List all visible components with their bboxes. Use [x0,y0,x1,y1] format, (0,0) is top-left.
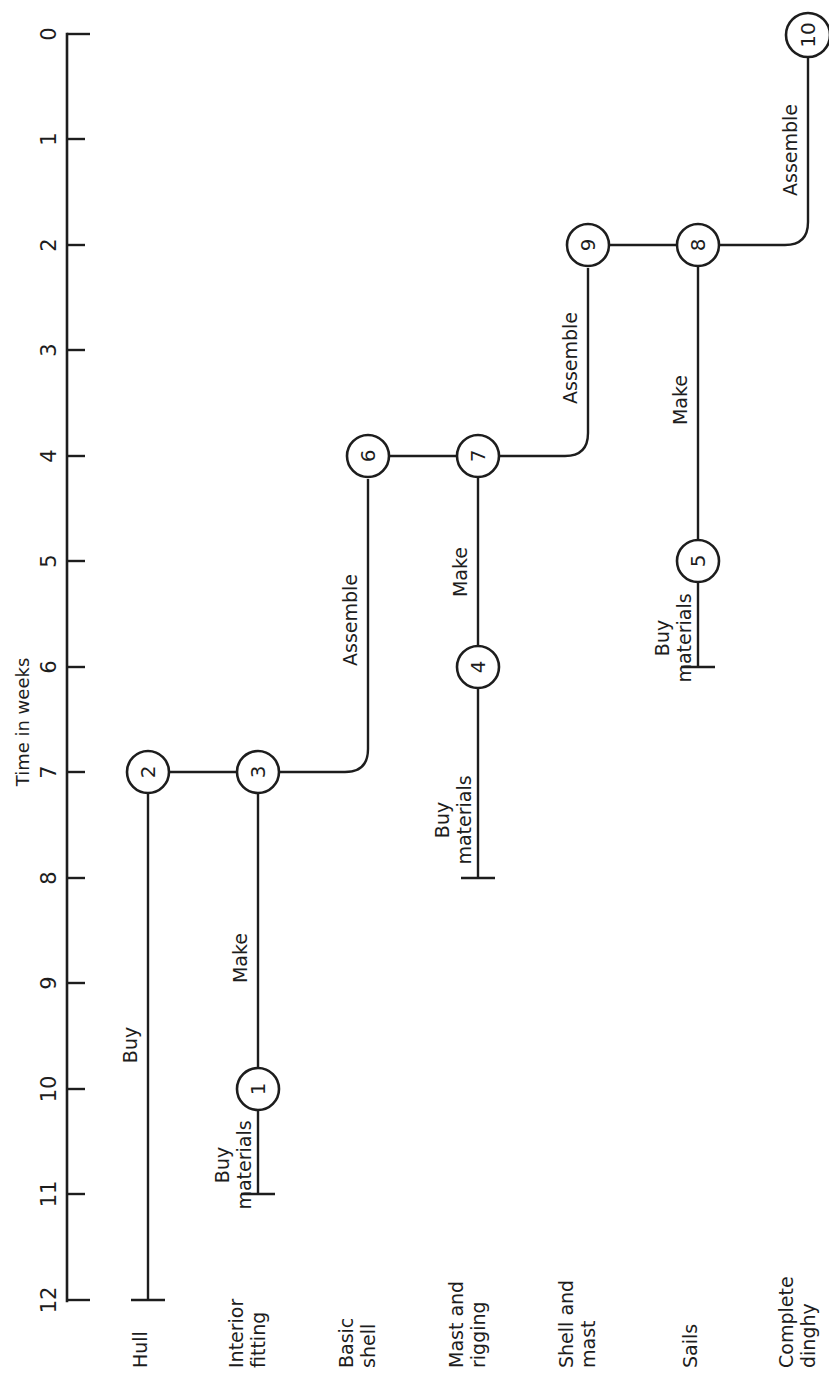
row-label-shell-and-mast-line2: mast [577,1321,599,1369]
node-3-label: 3 [246,766,270,779]
row-label-mast-and-rigging-line2: rigging [467,1301,489,1368]
activity-label-interior-buy-materials-line1: Buy [211,1147,233,1183]
tick-label-0: 0 [37,27,61,40]
axis-ticks [67,34,90,1300]
tick-label-7: 7 [37,765,61,778]
node-3[interactable]: 3 [237,751,279,793]
tick-label-5: 5 [37,554,61,567]
row-label-basic-shell: Basic shell [335,1318,379,1368]
row-label-complete-dinghy-line2: dinghy [797,1303,819,1368]
row-label-interior-fitting-line2: fitting [247,1312,269,1368]
activity-label-mast-make: Make [449,547,471,597]
node-8-label: 8 [686,239,710,252]
activity-label-mast-buy-materials: Buy materials [431,775,475,864]
activity-network-diagram: 0 1 2 3 4 5 6 7 8 9 10 11 12 Time in wee… [0,0,829,1376]
row-label-interior-fitting-line1: Interior [225,1299,247,1368]
node-6[interactable]: 6 [347,435,389,477]
node-2-label: 2 [136,766,160,779]
tick-label-10: 10 [37,1076,61,1103]
tick-label-8: 8 [37,871,61,884]
node-1[interactable]: 1 [237,1068,279,1110]
node-10[interactable]: 10 [786,13,829,57]
axis-title: Time in weeks [12,658,33,788]
axis-tick-labels: 0 1 2 3 4 5 6 7 8 9 10 11 12 [37,27,61,1313]
activity-label-sails-buy-materials: Buy materials [651,593,695,682]
activity-label-mast-buy-materials-line2: materials [453,775,475,864]
node-1-label: 1 [246,1083,270,1096]
tick-label-6: 6 [37,660,61,673]
tick-label-12: 12 [37,1287,61,1314]
node-10-label: 10 [796,22,820,47]
row-label-basic-shell-line2: shell [357,1324,379,1368]
tick-label-1: 1 [37,132,61,145]
row-label-hull: Hull [129,1331,151,1368]
row-label-mast-and-rigging: Mast and rigging [445,1281,489,1368]
tick-label-11: 11 [37,1181,61,1208]
time-axis: 0 1 2 3 4 5 6 7 8 9 10 11 12 Time in wee… [12,27,91,1313]
node-7[interactable]: 7 [457,435,499,477]
row-label-complete-dinghy: Complete dinghy [775,1276,819,1368]
row-labels: Hull Interior fitting Basic shell Mast a… [129,1276,819,1368]
tick-label-2: 2 [37,238,61,251]
network-canvas: 0 1 2 3 4 5 6 7 8 9 10 11 12 Time in wee… [0,0,829,1376]
row-label-shell-and-mast: Shell and mast [555,1280,599,1368]
activity-label-complete-dinghy-assemble: Assemble [779,104,801,196]
activity-label-mast-buy-materials-line1: Buy [431,802,453,838]
row-label-sails: Sails [679,1324,701,1368]
activity-label-basic-shell-assemble: Assemble [339,574,361,666]
node-9[interactable]: 9 [567,224,609,266]
node-6-label: 6 [356,450,380,463]
node-4[interactable]: 4 [457,646,499,688]
activity-label-sails-make: Make [669,375,691,425]
activity-label-interior-buy-materials-line2: materials [233,1120,255,1209]
tick-label-4: 4 [37,449,61,462]
node-2[interactable]: 2 [127,751,169,793]
row-label-shell-and-mast-line1: Shell and [555,1280,577,1368]
tick-label-3: 3 [37,343,61,356]
activity-label-interior-buy-materials: Buy materials [211,1120,255,1209]
tick-label-9: 9 [37,976,61,989]
row-label-interior-fitting: Interior fitting [225,1299,269,1368]
activity-label-sails-buy-materials-line2: materials [673,593,695,682]
activity-label-sails-buy-materials-line1: Buy [651,620,673,656]
activity-label-shell-mast-assemble: Assemble [559,312,581,404]
row-label-basic-shell-line1: Basic [335,1318,357,1368]
node-9-label: 9 [576,239,600,252]
node-4-label: 4 [466,661,490,674]
row-label-complete-dinghy-line1: Complete [775,1276,797,1368]
row-label-mast-and-rigging-line1: Mast and [445,1281,467,1368]
node-8[interactable]: 8 [677,224,719,266]
node-7-label: 7 [466,450,490,463]
activity-label-interior-make: Make [229,933,251,983]
node-5-label: 5 [686,555,710,568]
node-5[interactable]: 5 [677,540,719,582]
activity-label-hull-buy: Buy [119,1027,141,1063]
